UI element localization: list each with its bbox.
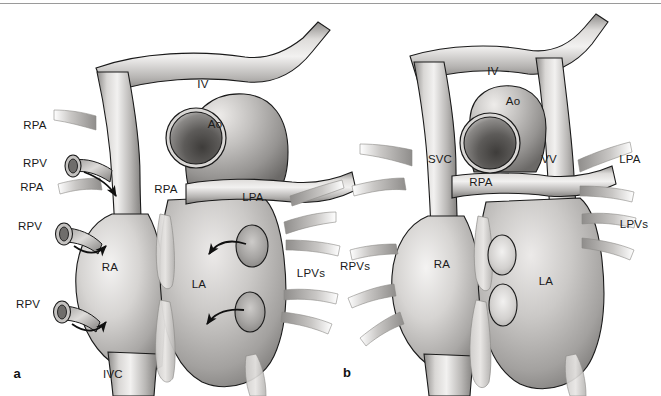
- lpv-branch-a-2: [286, 240, 340, 256]
- label-lpa-b: LPA: [619, 154, 640, 166]
- label-rpvs-b: RPVs: [340, 261, 370, 273]
- label-rpv-left-3: RPV: [16, 299, 40, 311]
- label-rpv-left-2: RPV: [18, 221, 42, 233]
- la-ostium-upper-a: [236, 225, 268, 267]
- rpv-branch-b-4: [348, 284, 396, 308]
- rpv-stump-lumen-a-3: [58, 305, 67, 319]
- lpv-branch-a-1: [284, 212, 336, 234]
- label-la: LA: [192, 279, 206, 291]
- left-atrium-a: [160, 196, 286, 387]
- label-rpv-left-1: RPV: [23, 158, 47, 170]
- label-iv-b: IV: [487, 66, 498, 78]
- rpv-stump-lumen-a-1: [69, 159, 78, 173]
- rpa-branch-a-upper: [54, 110, 96, 130]
- septum-highlight-lower-b: [470, 300, 491, 388]
- septum-highlight-lower-a: [156, 300, 176, 382]
- label-rpa-center: RPA: [154, 184, 177, 196]
- anatomical-figure: RPARPVRPARPVRPVIVAoRPALPARALALPVsIVCaIVA…: [0, 0, 661, 396]
- rpv-branch-b-2: [352, 178, 406, 196]
- label-ivc: IVC: [103, 369, 123, 381]
- ivc-b: [424, 354, 474, 396]
- label-lpvs: LPVs: [297, 268, 325, 280]
- lpv-branch-a-3: [284, 289, 338, 304]
- label-vv-b: VV: [541, 154, 557, 166]
- rpv-branch-b-5: [360, 312, 404, 346]
- label-ao-b: Ao: [506, 96, 520, 108]
- la-ostium-lower-b: [489, 284, 517, 326]
- label-lpa: LPA: [242, 192, 263, 204]
- lpv-branch-a-4: [281, 312, 332, 334]
- lpa-branch-b-2: [580, 186, 634, 202]
- label-la-b: LA: [539, 276, 553, 288]
- rpv-branch-b-3: [350, 244, 398, 260]
- heart-vasculature-illustration: [0, 0, 661, 396]
- right-atrium-b: [392, 216, 482, 373]
- label-ra-b: RA: [434, 259, 450, 271]
- label-iv: IV: [197, 79, 208, 91]
- panel-letter-a: a: [13, 367, 20, 380]
- label-ao: Ao: [208, 119, 222, 131]
- aorta-lumen-b: [464, 117, 516, 169]
- label-rpa-left-lower: RPA: [20, 182, 43, 194]
- label-rpa-b: RPA: [469, 177, 492, 189]
- label-lpvs-b: LPVs: [620, 219, 648, 231]
- la-ostium-upper-b: [488, 235, 516, 275]
- label-ra: RA: [102, 262, 118, 274]
- innominate-vein-a: [96, 22, 330, 94]
- la-ostium-lower-a: [235, 292, 265, 332]
- rpa-branch-a-lower: [58, 178, 102, 194]
- rpv-branch-b-1: [360, 144, 412, 166]
- label-rpa-left-upper: RPA: [23, 120, 46, 132]
- rpv-stump-lumen-a-2: [60, 227, 69, 241]
- panel-letter-b: b: [343, 366, 351, 379]
- label-svc-b: SVC: [428, 154, 452, 166]
- septum-highlight-upper-a: [156, 214, 174, 289]
